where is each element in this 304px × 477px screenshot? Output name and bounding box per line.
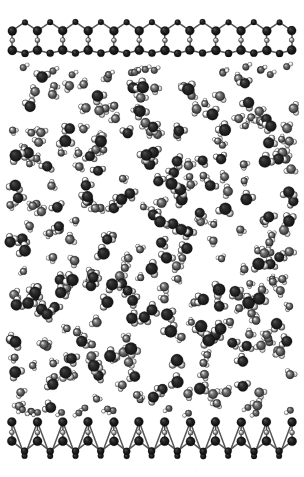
caption-artifact: .: [196, 468, 197, 473]
md-simulation-figure: .: [0, 0, 304, 477]
simulation-scene-canvas: [0, 0, 304, 477]
